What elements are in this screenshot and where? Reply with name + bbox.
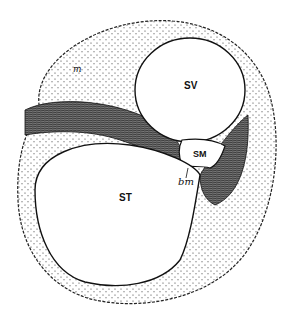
scala-tympani (35, 143, 200, 285)
label-sv: SV (184, 80, 197, 91)
label-sm: SM (193, 149, 207, 159)
cochlea-illustration (0, 0, 292, 318)
label-bm: bm (178, 176, 194, 187)
label-m: m (73, 64, 82, 74)
label-st: ST (119, 192, 132, 203)
